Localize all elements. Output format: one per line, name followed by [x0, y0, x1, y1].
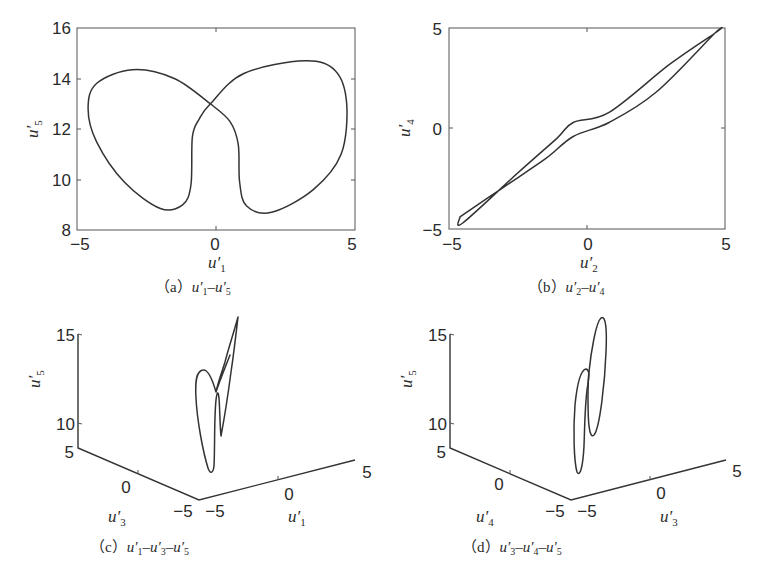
xlabel-c: u′1: [288, 507, 306, 528]
axes-3d-c: [78, 334, 355, 500]
ylabel-c: u′3: [108, 507, 126, 528]
xtick-c-0: 0: [284, 485, 293, 504]
ytick-c-neg5: −5: [173, 502, 192, 521]
xtick-a-neg5: −5: [70, 235, 89, 254]
ytick-c-0: 0: [121, 478, 130, 497]
ylabel-d: u′4: [476, 507, 494, 528]
ytick-b-neg5: −5: [423, 221, 442, 240]
trajectory-b: [458, 27, 722, 225]
panel-c: 15 10 5 0 −5 −5 0 5 u′3 u′1 u′5 （c）u′1–u…: [25, 317, 372, 557]
ytick-a-16: 16: [52, 19, 71, 38]
ytick-d-neg5: −5: [545, 502, 564, 521]
xtick-b-0: 0: [583, 235, 592, 254]
zlabel-c: u′5: [25, 370, 46, 388]
ztick-c-10: 10: [56, 415, 75, 434]
ytick-a-10: 10: [52, 171, 71, 190]
figure: 16 14 12 10 8 −5 0 5 u′1 u′5 （a）u′1–u′5 …: [0, 0, 759, 585]
xtick-c-5: 5: [362, 463, 371, 482]
panel-d: 15 10 5 0 −5 −5 0 5 u′4 u′3 u′5 （d）u′3–u…: [397, 318, 742, 557]
xtick-d-0: 0: [656, 484, 665, 503]
caption-b: （b）u′2–u′4: [528, 279, 605, 297]
xtick-a-0: 0: [210, 235, 219, 254]
xtick-d-5: 5: [732, 462, 741, 481]
ztick-d-10: 10: [428, 415, 447, 434]
ztick-c-5: 5: [65, 443, 74, 462]
xtick-a-5: 5: [347, 235, 356, 254]
ytick-d-0: 0: [494, 475, 503, 494]
xlabel-b: u′2: [580, 253, 598, 274]
ylabel-a: u′5: [23, 120, 44, 138]
panel-a: 16 14 12 10 8 −5 0 5 u′1 u′5 （a）u′1–u′5: [23, 19, 357, 297]
trajectory-c: [196, 317, 238, 472]
trajectory-d-lower-loop: [574, 369, 589, 474]
ytick-a-14: 14: [52, 70, 71, 89]
xtick-c-neg5: −5: [205, 502, 224, 521]
ytick-b-5: 5: [433, 20, 442, 39]
xtick-b-neg5: −5: [442, 235, 461, 254]
xtick-b-5: 5: [721, 235, 730, 254]
panel-b: 5 0 −5 −5 0 5 u′2 u′4 （b）u′2–u′4: [395, 20, 731, 297]
ztick-d-15: 15: [428, 326, 447, 345]
trajectory-d-upper-loop: [588, 318, 606, 436]
plot-frame-a: [77, 28, 355, 230]
zlabel-d: u′5: [397, 370, 418, 388]
ylabel-b: u′4: [395, 119, 416, 137]
ytick-b-0: 0: [433, 120, 442, 139]
ztick-c-15: 15: [56, 326, 75, 345]
caption-a: （a）u′1–u′5: [155, 279, 231, 297]
ytick-a-12: 12: [52, 120, 71, 139]
ztick-d-5: 5: [437, 443, 446, 462]
caption-d: （d）u′3–u′4–u′5: [462, 539, 562, 557]
trajectory-a: [88, 61, 347, 213]
xlabel-a: u′1: [208, 253, 226, 274]
xlabel-d: u′3: [660, 507, 678, 528]
caption-c: （c）u′1–u′3–u′5: [90, 539, 189, 557]
xtick-d-neg5: −5: [577, 502, 596, 521]
